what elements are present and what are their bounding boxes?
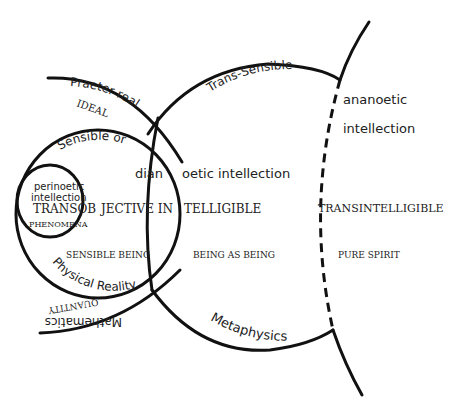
transintelligible-arc-top [340, 22, 369, 80]
ideal-label: IDEAL [75, 98, 110, 120]
oetic-intellection-label: oetic intellection [182, 166, 290, 181]
metaphysics-arc-bottom [152, 290, 333, 350]
transintelligible-label: TRANSINTELLIGIBLE [318, 202, 444, 215]
quantity-label: QUANTITY [46, 297, 99, 316]
being-as-being-label: BEING AS BEING [193, 250, 275, 260]
telligible-label: TELLIGIBLE [184, 202, 261, 216]
dian-label: dian [135, 166, 163, 181]
trans-sensible-label: Trans-Sensible [203, 58, 292, 95]
phenomena-label: PHENOMENA [29, 220, 88, 229]
ananoetic-label: ananoetic [343, 92, 407, 107]
transintelligible-arc-bottom [333, 330, 362, 395]
sensible-being-label: SENSIBLE BEING [66, 250, 150, 260]
perinoetic-label: perinoetic [34, 181, 84, 192]
semiotic-diagram: Praeter real IDEAL Sensible or Physical … [0, 0, 456, 412]
transob-label: TRANSOB [33, 202, 96, 216]
metaphysics-label: Metaphysics [209, 310, 288, 344]
physical-reality-label: Physical Reality [50, 255, 138, 294]
pure-spirit-label: PURE SPIRIT [338, 250, 400, 260]
jective-in-label: JECTIVE IN [99, 202, 173, 216]
ananoetic-intellection-label: intellection [343, 121, 415, 136]
sensible-or-label: Sensible or [55, 129, 128, 153]
mathematics-label: Mathematics [45, 315, 122, 329]
